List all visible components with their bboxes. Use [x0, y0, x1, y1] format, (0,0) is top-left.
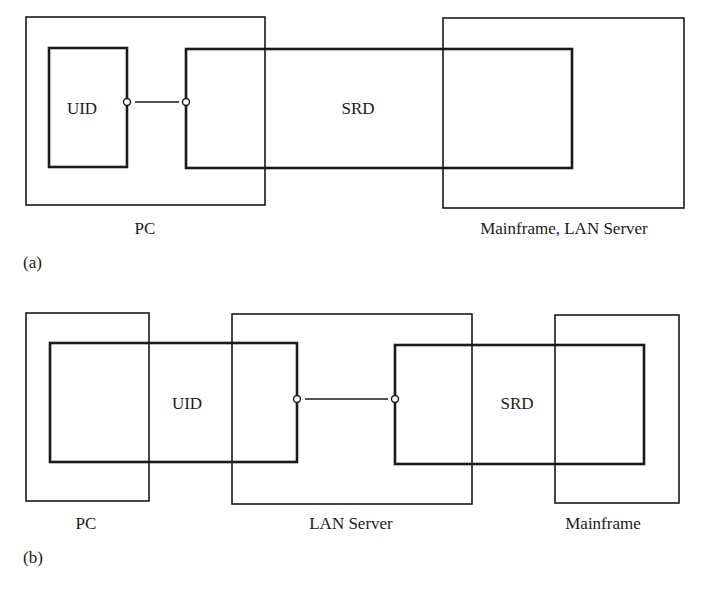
panel-a-label: (a) — [23, 253, 42, 272]
srd-port-icon — [183, 99, 190, 106]
diagram-a: UID SRD PC Mainframe, LAN Server (a) — [23, 17, 684, 272]
uid-port-icon — [124, 99, 131, 106]
pc-node-box — [26, 17, 265, 205]
pc-node-box — [26, 313, 149, 501]
diagram-b: UID SRD PC LAN Server Mainframe (b) — [23, 313, 679, 567]
mainframe-lan-server-label: Mainframe, LAN Server — [480, 219, 648, 238]
srd-port-icon — [392, 396, 399, 403]
pc-label: PC — [76, 514, 97, 533]
mainframe-node-box — [555, 315, 679, 503]
pc-label: PC — [135, 219, 156, 238]
srd-label: SRD — [341, 99, 374, 118]
mainframe-lan-server-node-box — [443, 18, 684, 208]
uid-label: UID — [67, 99, 97, 118]
uid-label: UID — [172, 394, 202, 413]
uid-port-icon — [294, 396, 301, 403]
distribution-diagram: UID SRD PC Mainframe, LAN Server (a) UID… — [0, 0, 701, 593]
lan-server-label: LAN Server — [309, 514, 393, 533]
srd-component-box — [186, 49, 572, 168]
mainframe-label: Mainframe — [565, 514, 641, 533]
panel-b-label: (b) — [23, 548, 43, 567]
srd-label: SRD — [500, 394, 533, 413]
